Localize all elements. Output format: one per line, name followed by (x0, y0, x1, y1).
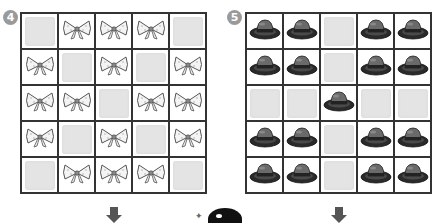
bow-icon (136, 90, 166, 116)
grid-cell (169, 13, 206, 49)
grid-cell (21, 13, 58, 49)
grid-cell (21, 157, 58, 193)
hat-icon (249, 17, 281, 45)
hat-icon (286, 17, 318, 45)
grid-cell (320, 13, 357, 49)
blank-tile (25, 161, 55, 190)
bow-icon (173, 126, 203, 152)
grid-cell (95, 13, 132, 49)
puzzle-grid-hats (245, 12, 432, 194)
grid-cell (132, 49, 169, 85)
hat-icon (397, 161, 429, 189)
grid-cell (132, 13, 169, 49)
grid-cell (246, 85, 283, 121)
bow-icon (99, 54, 129, 80)
grid-cell (283, 85, 320, 121)
grid-cell (283, 157, 320, 193)
bow-icon (62, 162, 92, 188)
blank-tile (324, 17, 354, 46)
bow-icon (62, 90, 92, 116)
hat-icon (360, 17, 392, 45)
bow-icon (25, 54, 55, 80)
blank-tile (173, 161, 203, 190)
grid-cell (246, 157, 283, 193)
grid-cell (246, 49, 283, 85)
bow-icon (99, 126, 129, 152)
grid-cell (394, 157, 431, 193)
puzzle-number-badge: 4 (3, 10, 18, 25)
grid-cell (21, 85, 58, 121)
grid-cell (58, 13, 95, 49)
blank-tile (250, 89, 280, 118)
mascot-icon (208, 208, 242, 223)
grid-cell (169, 121, 206, 157)
grid-cell (169, 85, 206, 121)
grid-cell (357, 121, 394, 157)
grid-cell (95, 121, 132, 157)
hat-icon (397, 125, 429, 153)
grid-cell (394, 13, 431, 49)
grid-cell (58, 157, 95, 193)
grid-cell (357, 85, 394, 121)
hat-icon (249, 161, 281, 189)
grid-cell (357, 49, 394, 85)
bow-icon (136, 18, 166, 44)
hat-icon (286, 53, 318, 81)
grid-cell (320, 157, 357, 193)
grid-cell (320, 85, 357, 121)
grid-cell (283, 49, 320, 85)
grid-cell (394, 49, 431, 85)
bow-icon (99, 18, 129, 44)
hat-icon (397, 17, 429, 45)
hat-icon (323, 89, 355, 117)
hat-icon (360, 53, 392, 81)
grid-cell (95, 49, 132, 85)
hat-icon (360, 161, 392, 189)
grid-cell (283, 13, 320, 49)
grid-cell (357, 13, 394, 49)
hat-icon (249, 53, 281, 81)
bow-icon (173, 54, 203, 80)
bow-icon (62, 18, 92, 44)
blank-tile (136, 53, 166, 82)
blank-tile (173, 17, 203, 46)
blank-tile (324, 161, 354, 190)
grid-cell (58, 121, 95, 157)
blank-tile (136, 125, 166, 154)
puzzle-number-badge: 5 (227, 10, 242, 25)
sparkle-icon: ✦ (195, 211, 203, 221)
blank-tile (287, 89, 317, 118)
grid-cell (21, 121, 58, 157)
blank-tile (324, 53, 354, 82)
hat-icon (249, 125, 281, 153)
bow-icon (25, 126, 55, 152)
grid-cell (283, 121, 320, 157)
bow-icon (173, 90, 203, 116)
hat-icon (360, 125, 392, 153)
grid-cell (95, 85, 132, 121)
grid-cell (320, 49, 357, 85)
grid-cell (246, 13, 283, 49)
bow-icon (99, 162, 129, 188)
blank-tile (25, 17, 55, 46)
grid-cell (320, 121, 357, 157)
blank-tile (62, 53, 92, 82)
grid-cell (394, 85, 431, 121)
grid-cell (132, 157, 169, 193)
blank-tile (99, 89, 129, 118)
blank-tile (398, 89, 428, 118)
blank-tile (324, 125, 354, 154)
grid-cell (246, 121, 283, 157)
blank-tile (361, 89, 391, 118)
grid-cell (132, 85, 169, 121)
bow-icon (25, 90, 55, 116)
grid-cell (58, 49, 95, 85)
grid-cell (169, 157, 206, 193)
puzzle-grid-bows (20, 12, 207, 194)
hat-icon (286, 125, 318, 153)
grid-cell (21, 49, 58, 85)
grid-cell (357, 157, 394, 193)
blank-tile (62, 125, 92, 154)
hat-icon (397, 53, 429, 81)
grid-cell (394, 121, 431, 157)
